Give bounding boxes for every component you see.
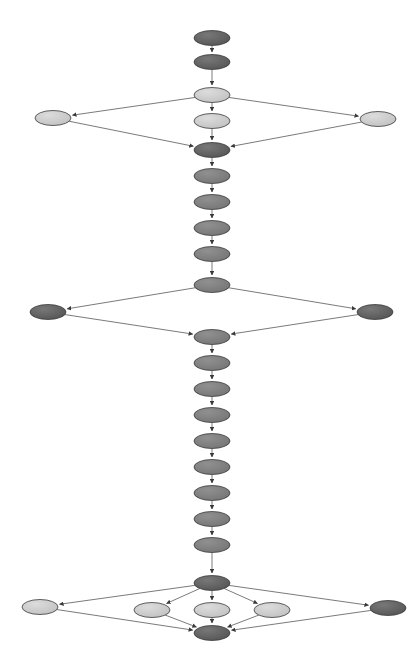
graph-node[interactable] [194, 278, 230, 293]
graph-node[interactable] [194, 114, 230, 129]
graph-node[interactable] [35, 111, 71, 126]
node-ellipse [22, 600, 58, 615]
graph-node[interactable] [194, 576, 230, 591]
graph-node[interactable] [194, 512, 230, 527]
graph-node[interactable] [194, 169, 230, 184]
node-ellipse [35, 111, 71, 126]
graph-node[interactable] [194, 382, 230, 397]
graph-node[interactable] [30, 305, 66, 320]
graph-edge [67, 288, 195, 309]
node-ellipse [194, 330, 230, 345]
node-ellipse [194, 31, 230, 46]
node-ellipse [194, 626, 230, 641]
graph-node[interactable] [370, 601, 406, 616]
graph-edge [229, 97, 359, 116]
graph-edge [72, 97, 195, 115]
graph-node[interactable] [194, 195, 230, 210]
node-ellipse [194, 460, 230, 475]
node-ellipse [30, 305, 66, 320]
node-ellipse [194, 55, 230, 70]
graph-node[interactable] [194, 88, 230, 103]
graph-edge [228, 615, 259, 627]
graph-node[interactable] [194, 55, 230, 70]
node-ellipse [194, 512, 230, 527]
graph-edge [231, 122, 362, 146]
graph-node[interactable] [194, 408, 230, 423]
graph-node[interactable] [357, 305, 393, 320]
graph-edge [224, 589, 257, 604]
graph-edge [165, 615, 196, 627]
node-ellipse [194, 538, 230, 553]
node-layer [22, 31, 406, 641]
graph-edge [65, 315, 193, 334]
graph-node[interactable] [194, 356, 230, 371]
graph-node[interactable] [254, 603, 290, 618]
node-ellipse [194, 143, 230, 158]
graph-node[interactable] [194, 626, 230, 641]
node-ellipse [194, 88, 230, 103]
node-ellipse [370, 601, 406, 616]
node-ellipse [254, 603, 290, 618]
graph-node[interactable] [194, 460, 230, 475]
graph-node[interactable] [194, 143, 230, 158]
graph-node[interactable] [22, 600, 58, 615]
graph-node[interactable] [194, 247, 230, 262]
node-ellipse [194, 408, 230, 423]
node-ellipse [194, 278, 230, 293]
graph-edge [69, 121, 193, 146]
node-ellipse [134, 603, 170, 618]
node-ellipse [194, 195, 230, 210]
graph-edge [57, 610, 193, 631]
node-ellipse [194, 486, 230, 501]
graph-diagram [0, 0, 420, 671]
graph-node[interactable] [194, 434, 230, 449]
node-ellipse [194, 603, 230, 618]
node-ellipse [194, 434, 230, 449]
node-ellipse [194, 221, 230, 236]
graph-edge [60, 585, 195, 604]
graph-edge [167, 589, 200, 604]
node-ellipse [194, 114, 230, 129]
graph-edge [229, 288, 356, 309]
node-ellipse [194, 576, 230, 591]
graph-node[interactable] [194, 221, 230, 236]
graph-node[interactable] [194, 538, 230, 553]
graph-edge [229, 585, 368, 605]
node-ellipse [357, 305, 393, 320]
graph-node[interactable] [194, 330, 230, 345]
graph-node[interactable] [134, 603, 170, 618]
graph-edge [231, 315, 358, 334]
graph-node[interactable] [360, 112, 396, 127]
node-ellipse [194, 247, 230, 262]
graph-node[interactable] [194, 31, 230, 46]
node-ellipse [194, 356, 230, 371]
graph-edge [232, 610, 371, 630]
graph-node[interactable] [194, 603, 230, 618]
graph-node[interactable] [194, 486, 230, 501]
node-ellipse [360, 112, 396, 127]
node-ellipse [194, 169, 230, 184]
node-ellipse [194, 382, 230, 397]
